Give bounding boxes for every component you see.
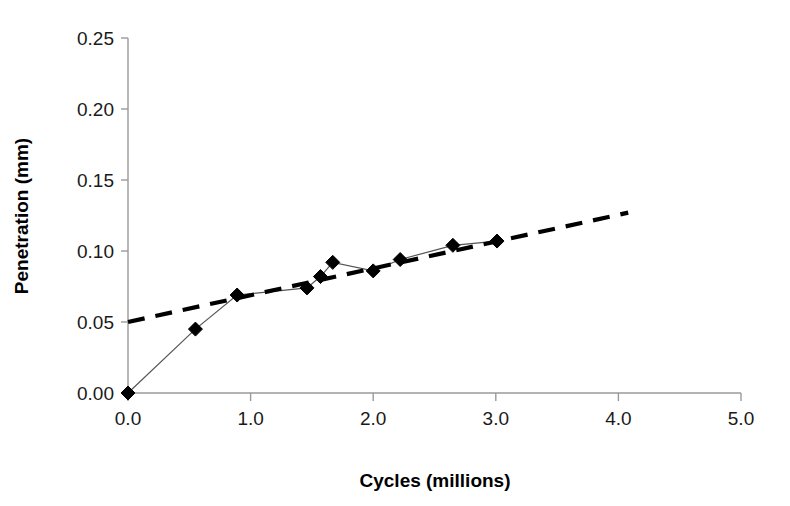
x-axis-title: Cycles (millions) <box>360 470 511 491</box>
y-axis-title: Penetration (mm) <box>11 138 32 294</box>
data-point-marker <box>230 288 244 302</box>
y-tick-label: 0.05 <box>77 312 114 333</box>
y-tick-label: 0.20 <box>77 99 114 120</box>
penetration-vs-cycles-chart: 0.000.050.100.150.200.25 0.01.02.03.04.0… <box>0 0 790 506</box>
axis-tick-marks <box>121 38 741 401</box>
y-tick-label: 0.00 <box>77 383 114 404</box>
x-tick-label: 4.0 <box>605 408 631 429</box>
x-tick-label: 3.0 <box>483 408 509 429</box>
x-tick-label: 1.0 <box>237 408 263 429</box>
trend-line-dashed <box>128 213 628 322</box>
x-tick-label: 5.0 <box>728 408 754 429</box>
x-axis-tick-labels: 0.01.02.03.04.05.0 <box>115 408 754 429</box>
data-point-markers <box>121 234 504 400</box>
y-axis-tick-labels: 0.000.050.100.150.200.25 <box>77 28 114 404</box>
y-tick-label: 0.25 <box>77 28 114 49</box>
data-point-marker <box>393 253 407 267</box>
data-point-marker <box>490 234 504 248</box>
chart-container: 0.000.050.100.150.200.25 0.01.02.03.04.0… <box>0 0 790 506</box>
y-tick-label: 0.15 <box>77 170 114 191</box>
axis-lines <box>128 38 741 393</box>
x-tick-label: 0.0 <box>115 408 141 429</box>
trend-line <box>128 213 628 322</box>
y-tick-label: 0.10 <box>77 241 114 262</box>
data-series-line <box>128 241 497 393</box>
series-polyline <box>128 241 497 393</box>
x-tick-label: 2.0 <box>360 408 386 429</box>
